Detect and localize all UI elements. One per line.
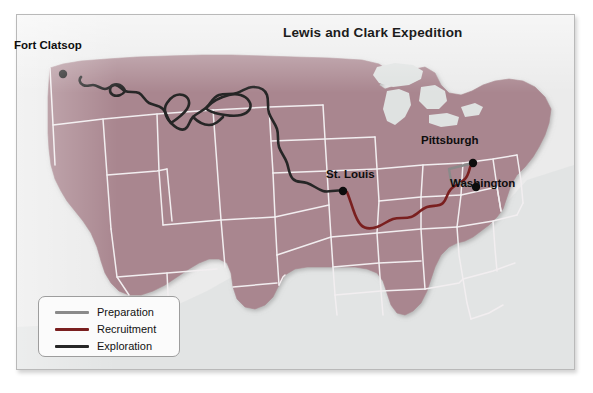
map-title: Lewis and Clark Expedition	[283, 25, 462, 40]
legend-label-exploration: Exploration	[97, 341, 152, 352]
legend-item-preparation: Preparation	[55, 304, 179, 320]
legend-label-recruitment: Recruitment	[97, 324, 156, 335]
legend-item-exploration: Exploration	[55, 338, 179, 354]
legend-swatch-recruitment	[55, 328, 89, 331]
legend-label-preparation: Preparation	[97, 307, 154, 318]
marker-pittsburgh[interactable]	[469, 159, 477, 167]
legend-swatch-preparation	[55, 311, 89, 314]
legend-swatch-exploration	[55, 345, 89, 348]
city-label-washington: Washington	[450, 177, 515, 189]
city-label-fort-clatsop: Fort Clatsop	[14, 39, 82, 51]
legend-item-recruitment: Recruitment	[55, 321, 179, 337]
marker-st-louis[interactable]	[339, 187, 347, 195]
map-legend: Preparation Recruitment Exploration	[38, 296, 180, 357]
marker-fort-clatsop[interactable]	[59, 70, 67, 78]
city-label-st-louis: St. Louis	[326, 168, 375, 180]
map-screenshot: Lewis and Clark Expedition Fort Clatsop …	[0, 0, 593, 393]
city-label-pittsburgh: Pittsburgh	[421, 134, 479, 146]
